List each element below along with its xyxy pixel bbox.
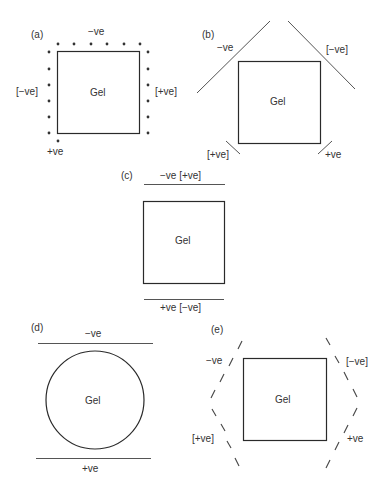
point-electrodes-left — [48, 51, 51, 135]
electrode-polarity-top-right: [−ve] — [346, 356, 368, 367]
electrode-polarity-bottom: +ve [−ve] — [160, 302, 201, 313]
electrode-line-top-right — [288, 21, 355, 89]
panel-c: (c) −ve [+ve] Gel +ve [−ve] — [121, 170, 225, 313]
gel-label: Gel — [85, 395, 101, 406]
panel-label: (d) — [31, 322, 43, 333]
electrode-polarity-top-left: −ve — [206, 355, 223, 366]
panel-label: (a) — [31, 29, 43, 40]
electrode-polarity-bottom-left: [+ve] — [207, 149, 229, 160]
electrode-polarity-bottom: +ve — [82, 463, 99, 474]
electrode-polarity-top-left: −ve — [217, 42, 234, 53]
panel-a: (a) −ve Gel [−ve] — [16, 26, 177, 157]
electrode-polarity-top: −ve — [88, 26, 105, 37]
electrophoresis-electrode-configurations-figure: (a) −ve Gel [−ve] — [0, 0, 386, 491]
electrode-polarity-top-right: [−ve] — [326, 44, 348, 55]
electrode-polarity-bottom-left: [+ve] — [192, 433, 214, 444]
electrode-polarity-left: [−ve] — [16, 86, 38, 97]
gel-label: Gel — [275, 394, 291, 405]
gel-label: Gel — [175, 235, 191, 246]
panel-b: (b) −ve [−ve] Gel [+ve] +ve — [197, 21, 355, 160]
electrode-polarity-top: −ve — [85, 328, 102, 339]
electrode-polarity-bottom: +ve — [47, 146, 64, 157]
electrode-polarity-bottom-right: +ve — [347, 433, 364, 444]
point-electrodes-right — [147, 51, 150, 135]
panel-label: (e) — [211, 324, 223, 335]
point-electrodes-top — [57, 43, 142, 46]
panel-label: (c) — [121, 170, 133, 181]
point-electrode-bottom — [57, 140, 60, 143]
electrode-polarity-top: −ve [+ve] — [160, 170, 201, 181]
gel-label: Gel — [90, 87, 106, 98]
gel-label: Gel — [270, 96, 286, 107]
panel-e: (e) −ve [−ve] Gel [+ve] +ve — [192, 324, 368, 468]
electrode-polarity-bottom-right: +ve — [325, 149, 342, 160]
electrode-polarity-right: [+ve] — [155, 86, 177, 97]
panel-label: (b) — [202, 29, 214, 40]
panel-d: (d) −ve Gel +ve — [31, 322, 153, 474]
